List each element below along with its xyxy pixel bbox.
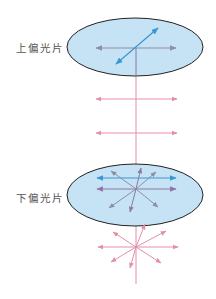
upper-polarizer (67, 18, 203, 76)
lower-polarizer (67, 164, 203, 226)
natural-light-star (98, 224, 178, 268)
lower-polarizer-label: 下偏光片 (16, 190, 64, 205)
upper-polarizer-label: 上偏光片 (16, 40, 64, 55)
